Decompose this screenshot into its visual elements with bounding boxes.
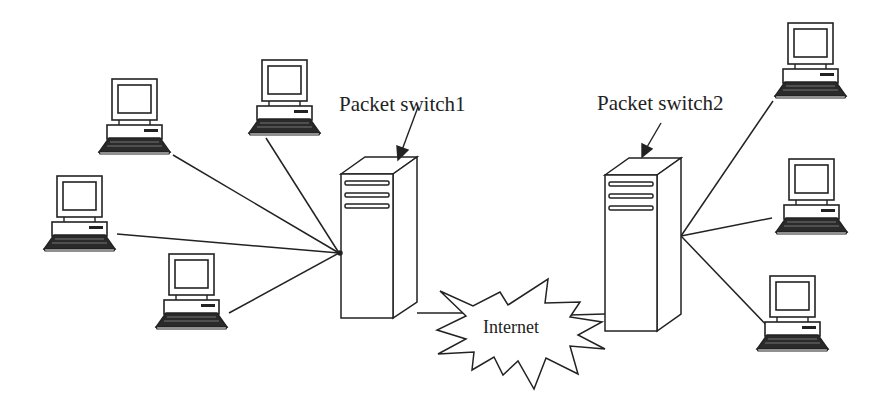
- link-pc-left-3: [117, 234, 339, 253]
- packet-switch2-label: Packet switch2: [597, 91, 724, 116]
- network-diagram: [0, 0, 886, 412]
- computer-icon: [757, 276, 828, 351]
- link-pc-right-1: [681, 101, 773, 236]
- computer-icon: [776, 159, 847, 234]
- link-pc-right-2: [681, 218, 772, 236]
- link-pc-left-1: [173, 155, 339, 253]
- link-pc-right-3: [681, 236, 774, 333]
- computer-icon: [775, 23, 846, 98]
- link-internet-switch2: [570, 314, 605, 315]
- computer-icon: [44, 176, 115, 251]
- server-tower-icon: [338, 157, 417, 318]
- computer-icon: [249, 60, 320, 135]
- computer-icon: [99, 79, 170, 154]
- link-pc-left-4: [229, 253, 339, 313]
- internet-label: Internet: [483, 317, 539, 338]
- link-pc-left-2: [266, 138, 339, 253]
- server-tower-icon: [605, 158, 681, 331]
- computer-icon: [156, 254, 227, 329]
- packet-switch1-label: Packet switch1: [339, 92, 466, 117]
